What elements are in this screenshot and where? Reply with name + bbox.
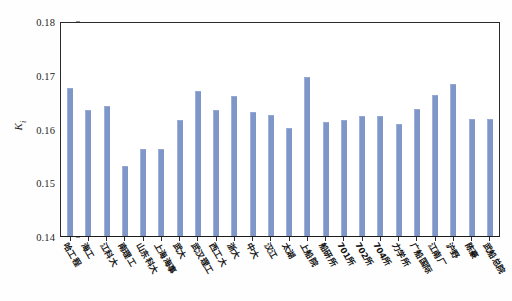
bar [140, 149, 146, 236]
bar [414, 109, 420, 236]
bar [432, 95, 438, 236]
x-label-slot: 上海海事 [152, 241, 170, 301]
bar [268, 115, 274, 236]
bar-item [353, 22, 371, 236]
bar-item [481, 22, 499, 236]
x-axis-tick-label: 沪野 [445, 241, 462, 261]
x-label-slot: 广船国际 [408, 241, 426, 301]
x-label-slot: 武汉理工 [189, 241, 207, 301]
x-axis-tick-label: 汉江 [262, 241, 279, 261]
bar-item [317, 22, 335, 236]
bar [487, 119, 493, 236]
x-label-slot: 南理工 [116, 241, 134, 301]
bar-item [426, 22, 444, 236]
x-label-slot: 上船院 [298, 241, 316, 301]
chart-figure: Ki 0.140.150.160.170.18 哈工程海工江科大南理工山东科大上… [0, 0, 512, 301]
x-axis-tick-label: 海工 [80, 241, 97, 261]
x-axis-labels: 哈工程海工江科大南理工山东科大上海海事武大武汉理工西工大浙大中大汉江太湖上船院船… [61, 241, 499, 301]
bar-item [298, 22, 316, 236]
bar [104, 106, 110, 236]
bar [323, 122, 329, 236]
bar-item [280, 22, 298, 236]
y-axis-tick-label: 0.16 [16, 124, 60, 135]
bar-item [134, 22, 152, 236]
bar-item [61, 22, 79, 236]
x-label-slot: 汉江 [262, 241, 280, 301]
x-axis-tick-label: 武船总院 [481, 241, 506, 276]
bar-item [171, 22, 189, 236]
x-label-slot: 武大 [171, 241, 189, 301]
y-axis-tick-label: 0.17 [16, 70, 60, 81]
bar-item [335, 22, 353, 236]
x-label-slot: 哈工程 [61, 241, 79, 301]
bar [359, 116, 365, 236]
bar-item [98, 22, 116, 236]
x-label-slot: 江科大 [98, 241, 116, 301]
x-label-slot: 702所 [353, 241, 371, 301]
bar-item [152, 22, 170, 236]
bar [286, 128, 292, 236]
x-axis-tick-label: 武大 [171, 241, 188, 261]
bar [377, 116, 383, 236]
bar-item [244, 22, 262, 236]
bar [396, 124, 402, 236]
x-axis-tick-label: 浙大 [226, 241, 243, 261]
bar [250, 112, 256, 236]
x-label-slot: 陈豪 [463, 241, 481, 301]
bar [213, 110, 219, 236]
bar-item [371, 22, 389, 236]
bar [177, 120, 183, 236]
bar [67, 88, 73, 236]
bar [231, 96, 237, 236]
x-label-slot: 浙大 [225, 241, 243, 301]
bar-item [79, 22, 97, 236]
y-axis-tick-label: 0.14 [16, 232, 60, 243]
x-label-slot: 701所 [335, 241, 353, 301]
bar [158, 149, 164, 236]
x-label-slot: 海工 [79, 241, 97, 301]
x-label-slot: 西工大 [207, 241, 225, 301]
x-axis-tick-label: 陈豪 [463, 241, 480, 261]
bar [341, 120, 347, 236]
x-label-slot: 沪野 [444, 241, 462, 301]
x-axis-tick-label: 太湖 [280, 241, 297, 261]
bar-item [444, 22, 462, 236]
bar [122, 166, 128, 236]
bar-item [408, 22, 426, 236]
x-label-slot: 船研所 [317, 241, 335, 301]
bar-item [390, 22, 408, 236]
bar [304, 77, 310, 236]
bar-series [61, 22, 499, 236]
bar-item [189, 22, 207, 236]
bar [85, 110, 91, 236]
x-label-slot: 704所 [371, 241, 389, 301]
x-label-slot: 武船总院 [481, 241, 499, 301]
y-axis-tick-label: 0.15 [16, 178, 60, 189]
bar [450, 84, 456, 236]
y-axis-tick-label: 0.18 [16, 17, 60, 28]
bar [195, 91, 201, 236]
x-label-slot: 力学所 [390, 241, 408, 301]
x-label-slot: 江南厂 [426, 241, 444, 301]
x-label-slot: 山东科大 [134, 241, 152, 301]
bar [469, 119, 475, 236]
bar-item [116, 22, 134, 236]
x-axis-tick-label: 中大 [244, 241, 261, 261]
x-label-slot: 中大 [244, 241, 262, 301]
x-label-slot: 太湖 [280, 241, 298, 301]
bar-item [262, 22, 280, 236]
bar-item [225, 22, 243, 236]
y-axis-ticks: 0.140.150.160.170.18 [16, 0, 60, 301]
bar-item [463, 22, 481, 236]
bar-item [207, 22, 225, 236]
